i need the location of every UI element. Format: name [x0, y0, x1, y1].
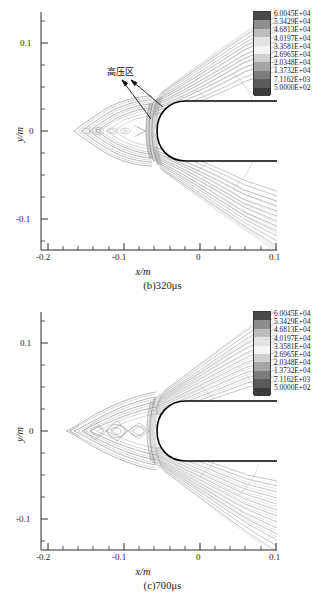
colorbar-700us — [253, 311, 271, 395]
body-fill — [157, 101, 277, 161]
contour-field — [74, 10, 277, 252]
y-tick-label-1: 0 — [29, 426, 34, 436]
y-tick-label-2: -0.1 — [16, 514, 30, 524]
x-ticks-320us — [48, 243, 276, 250]
colorbar-band-3 — [254, 362, 270, 370]
colorbar-band-6 — [254, 37, 270, 45]
colorbar-band-5 — [254, 346, 270, 354]
high-pressure-annotation: 高压区 — [107, 65, 134, 78]
colorbar-band-7 — [254, 329, 270, 337]
y-ticks-700us — [41, 343, 48, 519]
x-tick-label-3: 0.1 — [269, 252, 280, 262]
x-tick-label-0: -0.2 — [36, 552, 50, 562]
panel-700us: 0.1 0 -0.1 -0.2 -0.1 0 0.1 y/m 6.0045E+0… — [0, 300, 325, 599]
y-ticks-320us — [41, 43, 48, 219]
legend-value: 5.0000E+02 — [274, 84, 310, 92]
x-axis-label-320us: x/m — [0, 266, 286, 277]
colorbar-band-8 — [254, 320, 270, 328]
y-tick-label-1: 0 — [29, 126, 34, 136]
contour-field — [66, 307, 277, 555]
x-tick-label-2: 0 — [196, 552, 201, 562]
panel-caption-700us: (c)700μs — [0, 580, 325, 591]
legend-values-700us: 6.0045E+04 5.3429E+04 4.6813E+04 4.0197E… — [274, 310, 310, 392]
colorbar-band-4 — [254, 354, 270, 362]
panel-320us: 0.1 0 -0.1 -0.2 -0.1 0 0.1 y/m 高压区 6.004… — [0, 0, 325, 299]
y-tick-label-2: -0.1 — [16, 214, 30, 224]
colorbar-band-3 — [254, 62, 270, 70]
legend-value: 5.0000E+02 — [274, 384, 310, 392]
colorbar-band-9 — [254, 12, 270, 20]
colorbar-band-5 — [254, 46, 270, 54]
panel-caption-320us: (b)320μs — [0, 280, 325, 291]
x-tick-label-1: -0.1 — [112, 252, 126, 262]
body-fill — [157, 401, 277, 461]
colorbar-band-1 — [254, 379, 270, 387]
colorbar-band-7 — [254, 29, 270, 37]
colorbar-band-4 — [254, 54, 270, 62]
y-tick-label-0: 0.1 — [20, 338, 31, 348]
colorbar-band-8 — [254, 20, 270, 28]
plot-area-320us: 0.1 0 -0.1 -0.2 -0.1 0 0.1 y/m 高压区 6.004… — [0, 0, 325, 262]
x-tick-label-2: 0 — [196, 252, 201, 262]
x-tick-label-0: -0.2 — [36, 252, 50, 262]
y-tick-label-0: 0.1 — [20, 38, 31, 48]
colorbar-band-9 — [254, 312, 270, 320]
colorbar-band-0 — [254, 388, 270, 396]
y-axis-label-700us: y/m — [14, 427, 25, 442]
x-tick-label-1: -0.1 — [112, 552, 126, 562]
y-axis-label-320us: y/m — [14, 127, 25, 142]
x-minor-ticks-320us — [63, 246, 261, 250]
x-minor-ticks-700us — [63, 546, 261, 550]
colorbar-band-2 — [254, 371, 270, 379]
x-axis-label-700us: x/m — [0, 566, 286, 577]
colorbar-band-0 — [254, 88, 270, 96]
legend-values-320us: 6.0045E+04 5.3429E+04 4.6813E+04 4.0197E… — [274, 10, 310, 92]
plot-area-700us: 0.1 0 -0.1 -0.2 -0.1 0 0.1 y/m 6.0045E+0… — [0, 300, 325, 562]
x-tick-label-3: 0.1 — [269, 552, 280, 562]
colorbar-320us — [253, 11, 271, 95]
colorbar-band-1 — [254, 79, 270, 87]
x-ticks-700us — [48, 543, 276, 550]
colorbar-band-2 — [254, 71, 270, 79]
colorbar-band-6 — [254, 337, 270, 345]
